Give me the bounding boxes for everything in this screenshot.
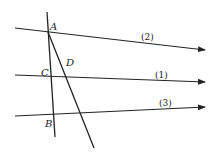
geometry-diagram: A C D B (2) (1) (3) [0,0,216,156]
line-3 [15,107,205,116]
label-line-3: (3) [159,98,172,108]
label-line-2: (2) [141,32,154,42]
label-d: D [65,57,74,68]
label-c: C [41,67,49,78]
label-line-1: (1) [155,70,168,80]
label-a: A [49,21,57,32]
label-b: B [44,118,52,129]
line-2 [15,28,205,50]
